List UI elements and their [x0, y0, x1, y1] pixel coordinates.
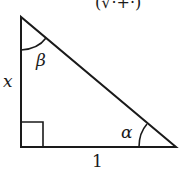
cropped-top-text: (√·+·)	[95, 0, 141, 12]
angle-alpha-arc	[139, 124, 147, 147]
right-triangle-diagram: (√·+·) β x α 1	[0, 0, 180, 174]
right-angle-marker	[21, 122, 43, 147]
side-x-label: x	[3, 71, 13, 91]
angle-beta-arc	[21, 38, 46, 50]
angle-alpha-label: α	[121, 122, 133, 142]
angle-beta-label: β	[35, 50, 46, 70]
triangle	[21, 17, 176, 147]
side-1-label: 1	[92, 151, 103, 171]
cropped-top-expression: (√·+·)	[95, 0, 141, 12]
